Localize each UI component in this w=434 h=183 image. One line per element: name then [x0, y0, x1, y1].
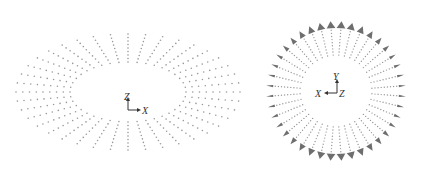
array-element-dot	[154, 65, 156, 67]
array-element-dot	[206, 50, 208, 52]
array-element-dot	[308, 46, 309, 47]
array-element-dot	[324, 137, 325, 138]
array-element-dot	[357, 126, 358, 127]
element-end-marker-icon	[266, 95, 273, 97]
array-element-dot	[325, 134, 326, 135]
array-element-dot	[339, 39, 340, 40]
array-element-dot	[279, 77, 280, 78]
array-element-dot	[127, 47, 129, 49]
array-element-dot	[380, 109, 381, 110]
array-element-dot	[182, 82, 184, 84]
array-element-dot	[185, 76, 187, 78]
array-element-dot	[363, 58, 364, 59]
array-element-dot	[339, 48, 340, 49]
element-end-marker-icon	[366, 143, 372, 151]
array-element-dot	[377, 108, 378, 109]
array-element-dot	[370, 82, 371, 83]
array-element-dot	[46, 113, 48, 115]
array-element-dot	[377, 55, 378, 56]
array-element-dot	[379, 63, 380, 64]
array-element-dot	[86, 49, 88, 51]
array-element-dot	[139, 131, 141, 133]
array-element-dot	[93, 67, 95, 69]
array-element-dot	[317, 46, 318, 47]
array-element-dot	[76, 143, 78, 145]
array-element-dot	[282, 112, 283, 113]
array-element-dot	[197, 127, 199, 129]
element-end-marker-icon	[268, 75, 275, 78]
left-axis-triad: Z X	[124, 91, 149, 116]
array-element-dot	[361, 120, 362, 121]
array-element-dot	[318, 132, 319, 133]
array-element-dot	[356, 40, 357, 41]
array-element-dot	[127, 142, 129, 144]
array-element-dot	[353, 48, 354, 49]
element-end-marker-icon	[271, 64, 278, 68]
array-element-dot	[127, 128, 129, 130]
array-element-dot	[327, 125, 328, 126]
array-element-dot	[313, 144, 314, 145]
array-element-dot	[286, 121, 287, 122]
array-element-dot	[93, 36, 95, 38]
array-element-dot	[288, 110, 289, 111]
array-element-dot	[85, 121, 87, 123]
element-end-marker-icon	[394, 114, 401, 118]
array-element-dot	[202, 130, 204, 132]
array-element-dot	[339, 45, 340, 46]
array-element-dot	[345, 49, 346, 50]
array-element-dot	[57, 97, 59, 99]
array-element-dot	[332, 136, 333, 137]
array-element-dot	[320, 54, 321, 55]
array-element-dot	[389, 68, 390, 69]
element-end-marker-icon	[366, 31, 372, 39]
array-element-dot	[185, 133, 187, 135]
array-element-dot	[199, 91, 201, 93]
array-element-dot	[301, 120, 302, 121]
array-element-dot	[386, 69, 387, 70]
array-element-dot	[293, 87, 294, 88]
array-element-dot	[111, 37, 113, 39]
array-element-dot	[359, 63, 360, 64]
array-element-dot	[187, 122, 189, 124]
array-element-dot	[172, 137, 174, 139]
array-element-dot	[307, 44, 308, 45]
array-element-dot	[315, 57, 316, 58]
array-element-dot	[127, 121, 129, 123]
array-element-dot	[191, 115, 193, 117]
array-element-dot	[185, 91, 187, 93]
array-element-dot	[331, 33, 332, 34]
array-element-dot	[127, 54, 129, 56]
array-element-dot	[299, 59, 300, 60]
array-element-dot	[302, 111, 303, 112]
array-element-dot	[339, 139, 340, 140]
array-element-dot	[227, 118, 229, 120]
array-element-dot	[367, 63, 368, 64]
element-end-marker-icon	[399, 85, 406, 87]
array-element-dot	[168, 112, 170, 114]
element-end-marker-icon	[397, 75, 404, 78]
array-element-dot	[371, 68, 372, 69]
array-element-dot	[304, 127, 305, 128]
array-element-dot	[185, 113, 187, 115]
array-element-dot	[344, 55, 345, 56]
array-element-dot	[183, 63, 185, 65]
array-element-dot	[73, 53, 75, 55]
array-element-dot	[340, 145, 341, 146]
array-element-dot	[371, 88, 372, 89]
array-element-dot	[69, 50, 71, 52]
array-element-dot	[117, 58, 119, 60]
array-element-dot	[77, 56, 79, 58]
array-element-dot	[384, 94, 385, 95]
array-element-dot	[227, 74, 229, 76]
array-element-dot	[231, 100, 233, 102]
array-element-dot	[89, 52, 91, 54]
array-element-dot	[348, 144, 349, 145]
array-element-dot	[48, 132, 50, 134]
array-element-dot	[340, 148, 341, 149]
array-element-dot	[206, 91, 208, 93]
array-element-dot	[225, 83, 227, 85]
array-element-dot	[367, 54, 368, 55]
array-element-dot	[322, 124, 323, 125]
array-element-dot	[377, 73, 378, 74]
array-element-dot	[72, 82, 74, 84]
